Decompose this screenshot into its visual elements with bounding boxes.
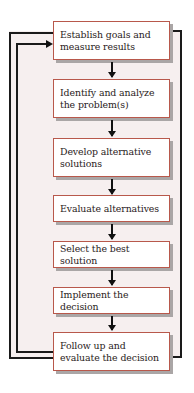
step-select-best-solution: Select the best solution — [53, 241, 170, 268]
outer-loop-bottom-left — [9, 357, 53, 359]
step-identify-problem: Identify and analyze the problem(s) — [53, 79, 170, 118]
outer-loop-right — [180, 30, 182, 358]
step-evaluate-alternatives: Evaluate alternatives — [53, 195, 170, 222]
step-follow-up-evaluate: Follow up and evaluate the decision — [53, 332, 170, 371]
step-label: Follow up and evaluate the decision — [60, 340, 163, 364]
arrow-down-icon — [111, 270, 113, 285]
step-label: Develop alternative solutions — [60, 146, 163, 170]
step-label: Identify and analyze the problem(s) — [60, 87, 163, 111]
outer-loop-left — [9, 32, 11, 359]
step-label: Evaluate alternatives — [60, 203, 159, 215]
outer-loop-top-left — [9, 32, 53, 34]
arrow-down-icon — [111, 224, 113, 239]
arrow-down-icon — [111, 120, 113, 136]
inner-loop-left — [16, 43, 18, 353]
feedback-arrow-icon — [46, 40, 53, 48]
step-label: Establish goals and measure results — [60, 29, 163, 53]
arrow-down-icon — [111, 62, 113, 77]
outer-loop-bottom-right — [170, 356, 182, 358]
step-label: Select the best solution — [60, 243, 163, 267]
arrow-down-icon — [111, 179, 113, 194]
inner-loop-bottom — [16, 351, 53, 353]
step-implement-decision: Implement the decision — [53, 287, 170, 314]
step-establish-goals: Establish goals and measure results — [53, 21, 170, 60]
inner-loop-top — [16, 43, 47, 45]
arrow-down-icon — [111, 316, 113, 330]
step-develop-alternatives: Develop alternative solutions — [53, 138, 170, 177]
step-label: Implement the decision — [60, 289, 163, 313]
